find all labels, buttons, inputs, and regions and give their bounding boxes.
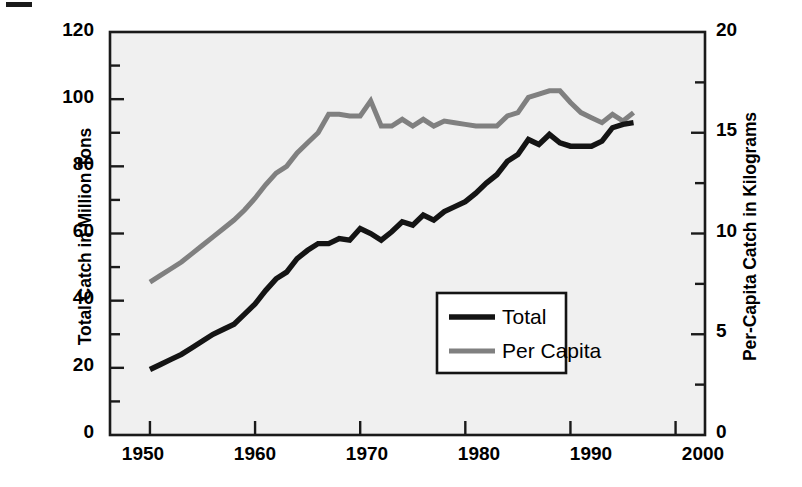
legend-label-total: Total <box>502 305 546 329</box>
chart-figure: Total Catch in Million Tons Per-Capita C… <box>0 0 802 487</box>
plot-background <box>110 32 705 435</box>
plot-area <box>0 0 802 487</box>
legend-label-per-capita: Per Capita <box>502 339 601 363</box>
